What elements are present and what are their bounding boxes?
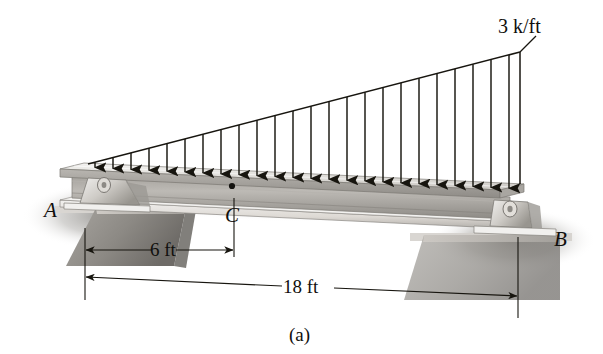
label-point-c: C: [225, 205, 239, 226]
label-dimension-18ft: 18 ft: [283, 277, 318, 296]
diagram-canvas: [0, 0, 603, 354]
beam-load-diagram: A B C 3 k/ft 6 ft 18 ft (a): [0, 0, 603, 354]
figure-caption: (a): [289, 325, 310, 344]
label-support-b: B: [554, 229, 567, 250]
label-support-a: A: [44, 200, 57, 221]
support-pier-right: [404, 233, 572, 300]
point-c-marker: [229, 183, 235, 189]
load-label-leader: [520, 36, 536, 52]
label-load-intensity: 3 k/ft: [498, 16, 541, 36]
label-dimension-6ft: 6 ft: [150, 240, 176, 259]
